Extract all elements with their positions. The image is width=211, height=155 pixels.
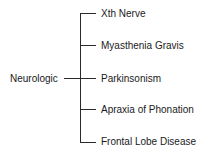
root-node: Neurologic xyxy=(10,73,58,85)
branch-connector xyxy=(80,45,96,46)
branch-node: Frontal Lobe Disease xyxy=(101,136,196,148)
branch-node: Parkinsonism xyxy=(101,73,161,85)
branch-node: Xth Nerve xyxy=(101,8,145,20)
branch-connector xyxy=(80,142,96,143)
branch-node: Myasthenia Gravis xyxy=(101,40,184,52)
branch-connector xyxy=(80,13,96,14)
branch-connector xyxy=(80,78,96,79)
branch-node: Apraxia of Phonation xyxy=(101,104,194,116)
branch-connector xyxy=(80,109,96,110)
root-connector xyxy=(64,78,81,79)
